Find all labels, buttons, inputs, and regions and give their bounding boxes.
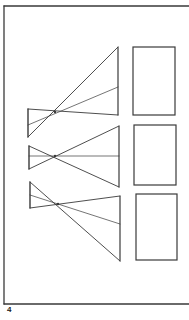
page-frame xyxy=(4,6,189,304)
ray-bottom xyxy=(29,126,119,169)
ray-middle xyxy=(28,87,118,125)
ray-top xyxy=(28,109,118,115)
screen-rectangle xyxy=(134,125,176,185)
projection-3 xyxy=(30,182,177,261)
page-number: 4 xyxy=(7,305,11,314)
pinhole-point xyxy=(57,203,59,205)
pinhole-point xyxy=(54,155,56,157)
projection-1 xyxy=(28,47,175,137)
ray-bottom xyxy=(28,47,118,137)
screen-rectangle xyxy=(136,194,177,260)
ray-top xyxy=(30,182,120,261)
pinhole-point xyxy=(54,111,56,113)
projection-group xyxy=(28,47,177,261)
ray-top xyxy=(29,146,119,187)
projection-diagram xyxy=(0,0,189,320)
ray-bottom xyxy=(30,196,120,208)
projection-2 xyxy=(29,125,176,187)
screen-rectangle xyxy=(133,47,175,115)
ray-middle xyxy=(30,195,120,224)
